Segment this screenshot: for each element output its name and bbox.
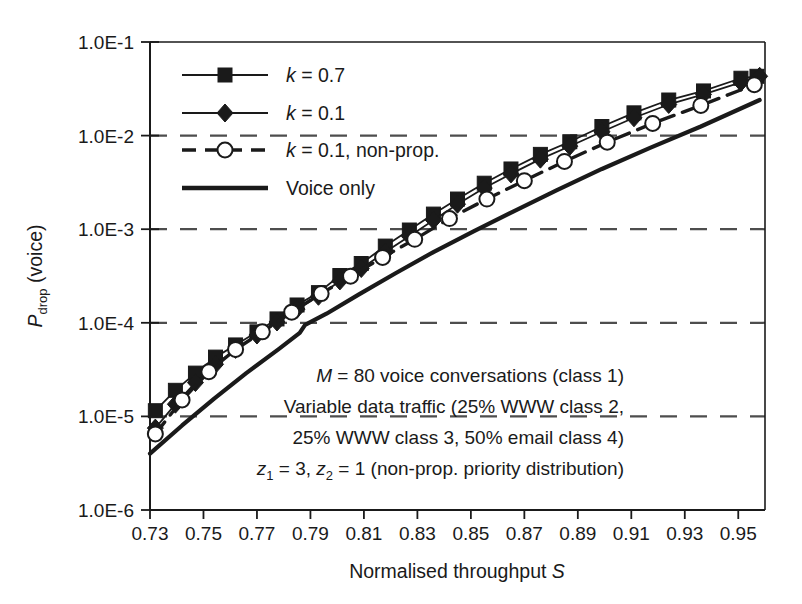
legend-label-0: k = 0.7 bbox=[286, 64, 345, 86]
y-tick-label-1.0E-4: 1.0E-4 bbox=[78, 313, 134, 334]
series-2-point-8 bbox=[375, 250, 390, 265]
legend-label-3: Voice only bbox=[286, 177, 375, 199]
series-0-point-0 bbox=[148, 404, 162, 418]
x-tick-label-0.91: 0.91 bbox=[613, 523, 650, 544]
series-2-point-15 bbox=[645, 116, 660, 131]
x-tick-label-0.89: 0.89 bbox=[559, 523, 596, 544]
series-2-point-11 bbox=[479, 192, 494, 207]
annotation-line-2: Variable data traffic (25% WWW class 2, bbox=[284, 396, 624, 417]
series-2-point-17 bbox=[747, 77, 762, 92]
series-2-point-1 bbox=[175, 392, 190, 407]
series-2-point-10 bbox=[442, 211, 457, 226]
y-tick-label-1.0E-5: 1.0E-5 bbox=[78, 406, 134, 427]
legend-marker-2 bbox=[218, 143, 233, 158]
x-tick-label-0.85: 0.85 bbox=[452, 523, 489, 544]
x-tick-label-0.75: 0.75 bbox=[185, 523, 222, 544]
x-tick-label-0.81: 0.81 bbox=[345, 523, 382, 544]
svg-text:Normalised throughput S: Normalised throughput S bbox=[349, 560, 565, 582]
series-2-point-14 bbox=[600, 135, 615, 150]
series-2-point-2 bbox=[201, 364, 216, 379]
series-2-point-5 bbox=[284, 305, 299, 320]
x-axis-title: Normalised throughput S bbox=[349, 560, 565, 582]
drop-probability-chart: 0.730.750.770.790.810.830.850.870.890.91… bbox=[0, 0, 802, 604]
x-tick-label-0.83: 0.83 bbox=[399, 523, 436, 544]
series-2-point-0 bbox=[148, 426, 163, 441]
series-2-point-9 bbox=[407, 232, 422, 247]
series-2-point-4 bbox=[255, 324, 270, 339]
series-2-point-3 bbox=[228, 342, 243, 357]
series-2-point-6 bbox=[314, 286, 329, 301]
series-2-point-16 bbox=[693, 98, 708, 113]
annotation-line-3: 25% WWW class 3, 50% email class 4) bbox=[292, 427, 624, 448]
x-tick-label-0.87: 0.87 bbox=[506, 523, 543, 544]
legend-label-2: k = 0.1, non-prop. bbox=[286, 139, 439, 161]
y-tick-label-1.0E-6: 1.0E-6 bbox=[78, 500, 134, 521]
x-tick-label-0.77: 0.77 bbox=[238, 523, 275, 544]
x-tick-label-0.95: 0.95 bbox=[720, 523, 757, 544]
series-2-point-7 bbox=[343, 269, 358, 284]
y-tick-label-1.0E-1: 1.0E-1 bbox=[78, 32, 134, 53]
x-tick-label-0.73: 0.73 bbox=[132, 523, 169, 544]
annotation-line-1: M = 80 voice conversations (class 1) bbox=[316, 365, 624, 386]
series-2-point-12 bbox=[517, 173, 532, 188]
x-tick-label-0.93: 0.93 bbox=[666, 523, 703, 544]
legend-label-1: k = 0.1 bbox=[286, 102, 345, 124]
y-tick-label-1.0E-3: 1.0E-3 bbox=[78, 219, 134, 240]
legend-marker-0 bbox=[218, 68, 232, 82]
chart-figure: 0.730.750.770.790.810.830.850.870.890.91… bbox=[0, 0, 802, 604]
y-tick-label-1.0E-2: 1.0E-2 bbox=[78, 126, 134, 147]
series-2-point-13 bbox=[557, 154, 572, 169]
x-tick-label-0.79: 0.79 bbox=[292, 523, 329, 544]
